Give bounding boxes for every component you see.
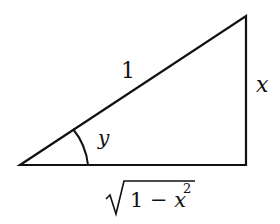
angle-arc xyxy=(73,129,88,165)
right-triangle xyxy=(20,16,246,165)
vertical-side-label: x xyxy=(256,72,269,97)
radical-body: 1 − x xyxy=(130,188,186,212)
exponent: 2 xyxy=(183,181,191,196)
hypotenuse-label: 1 xyxy=(121,58,135,83)
base-label: 1 − x 2 xyxy=(106,181,195,214)
triangle-diagram: 1 x y 1 − x 2 xyxy=(0,0,280,224)
angle-label: y xyxy=(97,126,110,150)
